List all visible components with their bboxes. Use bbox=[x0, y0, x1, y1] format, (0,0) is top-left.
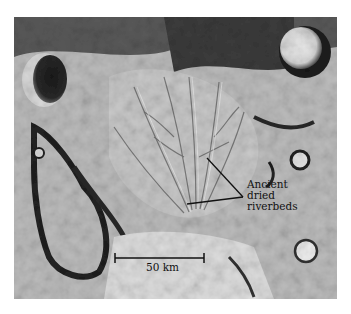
scale-bar-label: 50 km bbox=[146, 262, 179, 273]
terrain-photo bbox=[14, 17, 337, 299]
riverbeds-annotation: Ancient dried riverbeds bbox=[247, 179, 298, 212]
annotation-line-3: riverbeds bbox=[247, 201, 298, 212]
